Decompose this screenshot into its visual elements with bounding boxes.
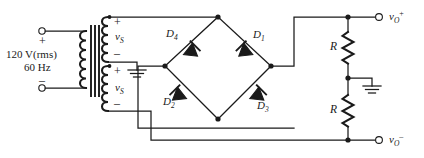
diode-d2-subscript: 2: [171, 101, 175, 110]
source-frequency-label: 60 Hz: [24, 62, 51, 73]
secondary-bottom-minus-label: –: [114, 97, 120, 109]
ground-resistor-center-tap: [363, 86, 381, 93]
secondary-bottom-voltage-subscript: S: [120, 87, 124, 96]
node-bridge-bottom: [215, 116, 220, 121]
node-bridge-left: [162, 63, 167, 68]
output-terminal-positive: [376, 14, 383, 21]
diode-d4-subscript: 4: [174, 33, 178, 42]
resistor-top-symbol: [343, 32, 354, 64]
circuit-diagram-canvas: + 120 V(rms) 60 Hz – + vS – + vS – D4 D1…: [0, 0, 424, 158]
diode-d3-subscript: 3: [265, 105, 269, 114]
node-output-positive: [345, 14, 350, 19]
output-terminal-negative: [376, 137, 383, 144]
output-positive-superscript: +: [399, 9, 404, 18]
diode-d1-symbol: [237, 41, 253, 56]
output-negative-superscript: –: [399, 132, 403, 141]
source-voltage-label: 120 V(rms): [6, 49, 57, 60]
secondary-top-voltage-subscript: S: [120, 36, 124, 45]
diode-d1-label: D1: [253, 29, 265, 40]
transformer-core: [91, 26, 99, 96]
transformer-secondary-bottom-winding: [102, 66, 108, 111]
diode-d3-symbol: [250, 85, 266, 100]
diode-d4-symbol: [184, 41, 200, 56]
source-plus-label: +: [39, 35, 46, 47]
output-positive-label: vO+: [389, 11, 404, 22]
source-minus-label: –: [39, 74, 45, 86]
secondary-bottom-voltage-label: vS: [115, 82, 124, 93]
transformer-secondary-top-winding: [102, 17, 108, 62]
diode-d3-symbol-text: D: [257, 99, 265, 111]
secondary-top-plus-label: +: [114, 16, 121, 28]
secondary-bottom-plus-label: +: [114, 65, 121, 77]
polarity-dot-secondary-bottom: [108, 64, 112, 68]
secondary-top-voltage-label: vS: [115, 31, 124, 42]
diode-d4-symbol-text: D: [166, 27, 174, 39]
wire-bridge-right-to-output: [271, 17, 375, 66]
resistor-top-label: R: [330, 41, 337, 53]
diode-d3-label: D3: [257, 100, 269, 111]
schematic-svg: [0, 0, 424, 158]
diode-d2-symbol-text: D: [163, 95, 171, 107]
transformer-primary-winding: [80, 31, 86, 88]
wire-resistor-center-tap-ground: [348, 78, 372, 86]
ground-transformer-center-tap: [128, 70, 146, 77]
diode-d4-label: D4: [166, 28, 178, 39]
diode-d2-label: D2: [163, 96, 175, 107]
node-bridge-top: [215, 14, 220, 19]
secondary-top-minus-label: –: [114, 47, 120, 59]
resistor-bottom-label: R: [330, 104, 337, 116]
diode-d1-symbol-text: D: [253, 28, 261, 40]
resistor-bottom-symbol: [343, 95, 354, 127]
output-negative-label: vO–: [389, 134, 403, 145]
diode-d1-subscript: 1: [261, 34, 265, 43]
